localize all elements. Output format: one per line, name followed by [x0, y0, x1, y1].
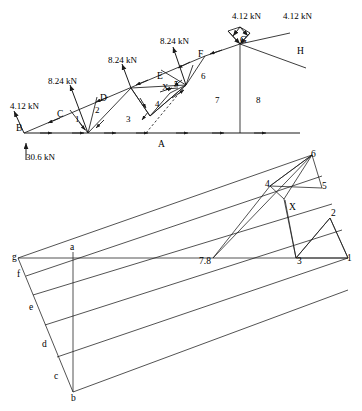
maxwell-point-f: f [17, 270, 20, 280]
truss-panel-x: X [162, 83, 169, 92]
load-label-g-left: 4.12 kN [232, 12, 261, 21]
load-label-e: 8.24 kN [160, 37, 189, 46]
truss-node-d: D [100, 94, 107, 104]
load-label-c: 8.24 kN [48, 77, 77, 86]
truss-panel-7: 7 [215, 96, 220, 105]
maxwell-point-b: b [71, 394, 76, 404]
maxwell-point-c: c [54, 372, 58, 382]
maxwell-point-1: 1 [347, 254, 352, 264]
maxwell-point-6: 6 [311, 150, 316, 160]
truss-node-f: F [198, 50, 203, 60]
load-label-b: 4.12 kN [10, 102, 39, 111]
reaction-label: 30.6 kN [26, 153, 55, 162]
truss-panel-2: 2 [95, 106, 100, 115]
truss-node-e: E [157, 72, 163, 82]
maxwell-point-x: X [289, 203, 296, 213]
truss-node-g: G [240, 36, 247, 46]
load-label-d: 8.24 kN [108, 56, 137, 65]
figure-linework [0, 0, 362, 411]
load-label-g-right: 4.12 kN [283, 12, 312, 21]
maxwell-point-3: 3 [297, 257, 302, 267]
maxwell-point-4: 4 [265, 180, 270, 190]
truss-panel-3: 3 [126, 115, 131, 124]
maxwell-point-7-8: 7.8 [199, 257, 211, 267]
truss-node-c: C [57, 110, 63, 120]
maxwell-point-a: a [70, 243, 74, 253]
engineering-figure: 4.12 kN 8.24 kN 8.24 kN 8.24 kN 4.12 kN … [0, 0, 362, 411]
truss-panel-6: 6 [201, 72, 206, 81]
maxwell-point-e: e [29, 303, 33, 313]
maxwell-point-d: d [42, 340, 47, 350]
maxwell-point-5: 5 [322, 182, 327, 192]
truss-node-b: B [16, 124, 22, 134]
maxwell-point-g: g [12, 253, 17, 263]
truss-panel-5: 5 [174, 80, 179, 89]
truss-panel-1: 1 [75, 115, 80, 124]
truss-node-a: A [158, 140, 165, 150]
truss-node-h: H [297, 47, 304, 57]
truss-panel-4: 4 [155, 100, 160, 109]
truss-panel-8: 8 [256, 96, 261, 105]
maxwell-point-2: 2 [331, 209, 336, 219]
